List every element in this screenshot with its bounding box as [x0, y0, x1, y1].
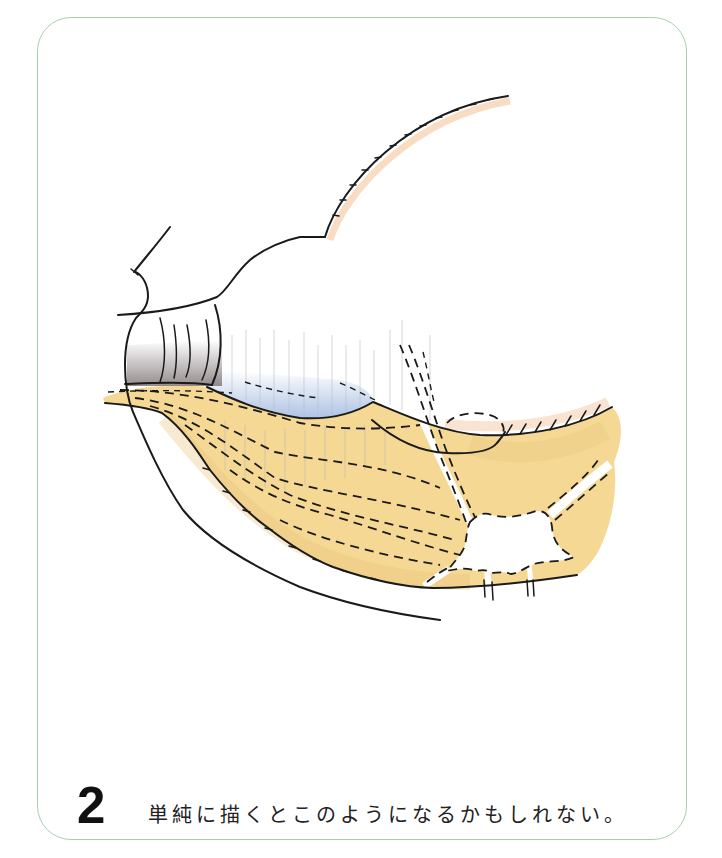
upper-arc-line	[325, 96, 508, 237]
upper-left-line	[134, 227, 170, 272]
upper-contour-line	[118, 237, 325, 315]
figure-number: 2	[77, 780, 105, 831]
arc-ticks	[333, 99, 493, 216]
figure-caption: 単純に描くとこのようになるかもしれない。	[148, 803, 628, 827]
anatomical-illustration	[0, 0, 722, 858]
arc-orange-tint	[330, 101, 510, 240]
